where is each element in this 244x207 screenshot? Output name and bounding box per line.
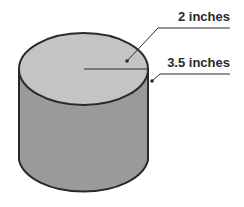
- cylinder-diagram: 2 inches 3.5 inches: [0, 0, 244, 207]
- radius-label: 2 inches: [178, 9, 230, 24]
- height-label: 3.5 inches: [167, 55, 230, 70]
- height-leader: [150, 74, 230, 83]
